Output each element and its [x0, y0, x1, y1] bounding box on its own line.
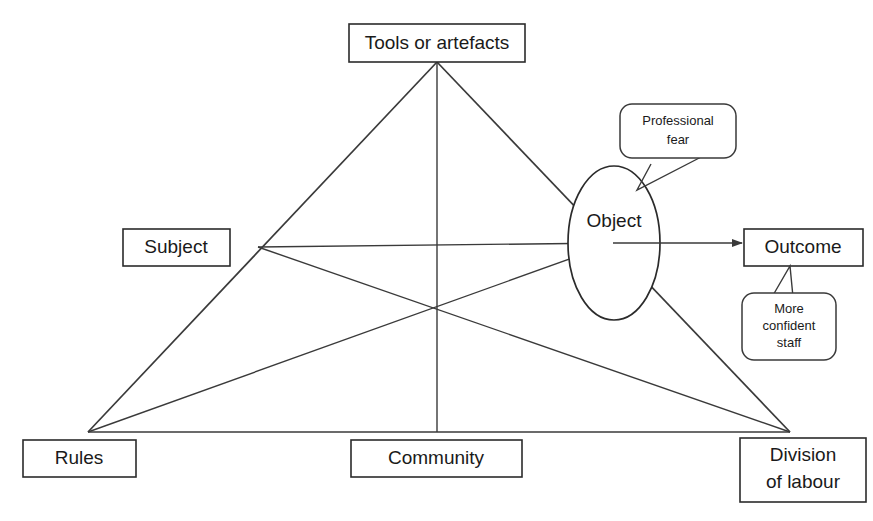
- diagram-canvas: Object Tools or artefacts Subject Outcom…: [0, 0, 873, 521]
- division-label-line2: of labour: [766, 471, 841, 492]
- activity-system-diagram: Object Tools or artefacts Subject Outcom…: [0, 0, 873, 521]
- outcome-label: Outcome: [764, 236, 841, 257]
- professional-fear-line1: Professional: [642, 113, 714, 128]
- node-tools-or-artefacts[interactable]: Tools or artefacts: [349, 24, 525, 62]
- professional-fear-bubble[interactable]: [620, 104, 736, 158]
- subject-label: Subject: [144, 236, 208, 257]
- professional-fear-tail: [637, 155, 705, 190]
- node-outcome[interactable]: Outcome: [744, 229, 863, 266]
- object-label: Object: [587, 210, 643, 231]
- tools-label: Tools or artefacts: [365, 32, 510, 53]
- node-division-of-labour[interactable]: Division of labour: [740, 438, 866, 502]
- node-subject[interactable]: Subject: [123, 229, 230, 266]
- more-confident-staff-line2: confident: [763, 318, 816, 333]
- callout-more-confident-staff[interactable]: More confident staff: [742, 266, 836, 360]
- node-community[interactable]: Community: [351, 440, 522, 477]
- more-confident-staff-line3: staff: [777, 335, 802, 350]
- connector-subject-object: [258, 243, 614, 247]
- professional-fear-line2: fear: [667, 132, 690, 147]
- more-confident-staff-line1: More: [774, 301, 804, 316]
- rules-label: Rules: [55, 447, 104, 468]
- node-rules[interactable]: Rules: [23, 440, 136, 477]
- connector-rules-object: [88, 243, 614, 432]
- division-label-line1: Division: [770, 444, 837, 465]
- community-label: Community: [388, 447, 485, 468]
